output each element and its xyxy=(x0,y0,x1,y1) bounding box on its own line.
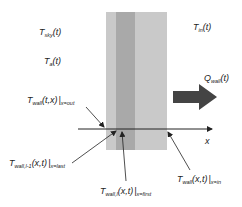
label-t-wall-last: Twall,l-1(x,t)|x=last xyxy=(9,158,65,169)
label-t-in: Tin(t) xyxy=(193,22,211,33)
label-t-sky: Tsky(t) xyxy=(39,27,61,38)
label-t-wall-in: Twall(x,t)|x=in xyxy=(177,174,221,185)
heat-flow-arrow-icon xyxy=(173,84,217,110)
wall-heat-transfer-diagram: x Tsky(t) Ta(t) Twall(t,x)|x=out Tin(t) … xyxy=(0,0,242,207)
pointer-in xyxy=(168,132,190,170)
label-t-wall-out: Twall(t,x)|x=out xyxy=(27,95,75,106)
label-q-wall: Qwall(t) xyxy=(204,73,229,84)
label-t-wall-first: Twall,l(x,t)|x=first xyxy=(100,186,152,197)
label-t-a: Ta(t) xyxy=(44,56,61,67)
x-axis-label: x xyxy=(204,136,210,146)
pointer-out xyxy=(86,107,104,127)
